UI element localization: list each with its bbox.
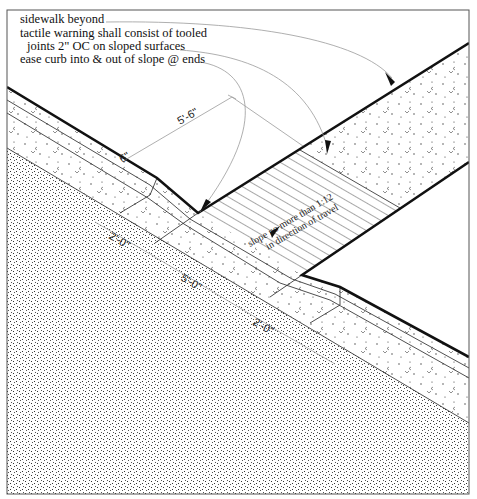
note-tactile-warning: tactile warning shall consist of tooled	[20, 26, 207, 40]
note-ease-curb: ease curb into & out of slope @ ends	[20, 52, 205, 66]
curb-ramp-drawing: 5'-6" 6" 2'-0" 5'-0" 2'-0" slope no more…	[0, 0, 477, 499]
note-tooled-joints: joints 2" OC on sloped surfaces	[27, 39, 185, 53]
note-sidewalk-beyond: sidewalk beyond	[20, 12, 104, 26]
